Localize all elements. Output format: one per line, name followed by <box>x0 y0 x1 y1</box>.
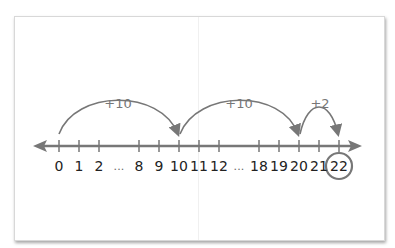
ellipsis-label: ... <box>113 160 124 173</box>
tick-label: 12 <box>210 158 228 174</box>
number-line-diagram <box>0 0 395 248</box>
jump-arc-3 <box>300 107 338 134</box>
tick-label: 11 <box>190 158 208 174</box>
tick-label: 8 <box>134 158 143 174</box>
jump-label-1: +10 <box>104 96 131 111</box>
tick-label: 18 <box>250 158 268 174</box>
tick-label: 21 <box>310 158 328 174</box>
tick-label: 9 <box>154 158 163 174</box>
tick-label: 2 <box>94 158 103 174</box>
tick-label: 20 <box>290 158 308 174</box>
tick-label: 19 <box>270 158 288 174</box>
tick-label: 10 <box>170 158 188 174</box>
ellipsis-label: ... <box>233 160 244 173</box>
jump-label-3: +2 <box>310 96 329 111</box>
tick-label: 1 <box>74 158 83 174</box>
tick-label: 0 <box>54 158 63 174</box>
answer-label: 22 <box>330 158 348 174</box>
jump-label-2: +10 <box>225 96 252 111</box>
